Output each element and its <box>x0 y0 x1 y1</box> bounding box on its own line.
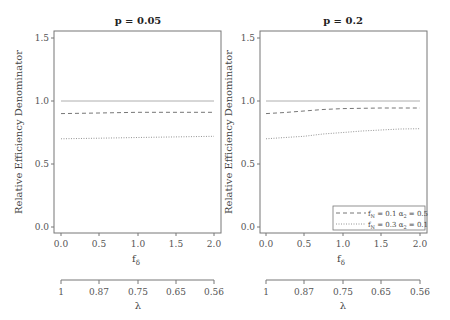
lambda-tick-label: 0.56 <box>410 287 430 297</box>
x-tick-label: 1.0 <box>131 239 146 249</box>
panel-left: p = 0.05 1.5 1.0 0.5 0.0 Relative Effici… <box>13 15 224 311</box>
x-tick-label: 2.0 <box>413 239 428 249</box>
plot-frame-left <box>54 31 221 233</box>
y-axis-label-right: Relative Efficiency Denominator <box>223 50 234 214</box>
y-tick-label: 1.5 <box>35 33 50 43</box>
x-tick-label: 1.5 <box>374 239 389 249</box>
lambda-tick-label: 0.65 <box>166 287 186 297</box>
x-tick-label: 1.5 <box>169 239 184 249</box>
series-dotted-left <box>61 136 214 139</box>
legend-entry-2: fN = 0.3 α2 = 0.1 <box>368 221 428 230</box>
y-tick-label: 0.0 <box>35 222 50 232</box>
y-axis-label-left: Relative Efficiency Denominator <box>13 50 24 214</box>
x-tick-label: 0.0 <box>54 239 69 249</box>
series-dashed-left <box>61 112 214 113</box>
lambda-tick-label: 0.87 <box>294 287 314 297</box>
y-tick-label: 0.5 <box>35 159 50 169</box>
series-dotted-right <box>266 129 420 139</box>
plot-frame-right <box>260 31 427 233</box>
x-tick-label: 2.0 <box>207 239 222 249</box>
lambda-tick-label: 0.75 <box>128 287 148 297</box>
panel-right: p = 0.2 1.5 1.0 0.5 0.0 Relative Efficie… <box>223 15 430 311</box>
lambda-tick-label: 0.65 <box>371 287 391 297</box>
lambda-axis-label-left: λ <box>135 300 142 311</box>
panel-title-right: p = 0.2 <box>323 15 363 26</box>
lambda-tick-label: 0.87 <box>89 287 109 297</box>
series-dashed-right <box>266 108 420 114</box>
legend-entry-1: fN = 0.1 α2 = 0.5 <box>368 210 428 219</box>
lambda-tick-label: 0.75 <box>333 287 353 297</box>
x-tick-label: 0.0 <box>259 239 274 249</box>
x-axis-label-left: fδ <box>132 253 140 267</box>
x-tick-label: 0.5 <box>92 239 107 249</box>
x-axis-label-right: fδ <box>337 253 345 267</box>
lambda-tick-label: 1 <box>58 287 64 297</box>
x-tick-label: 0.5 <box>297 239 312 249</box>
lambda-tick-label: 1 <box>263 287 269 297</box>
chart-canvas: p = 0.05 1.5 1.0 0.5 0.0 Relative Effici… <box>0 0 450 320</box>
y-tick-label: 1.0 <box>35 96 50 106</box>
lambda-axis-label-right: λ <box>340 300 347 311</box>
lambda-tick-label: 0.56 <box>204 287 224 297</box>
x-tick-label: 1.0 <box>336 239 351 249</box>
legend: fN = 0.1 α2 = 0.5 fN = 0.3 α2 = 0.1 <box>333 206 428 230</box>
y-tick-label: 0.5 <box>241 159 256 169</box>
panel-title-left: p = 0.05 <box>115 15 162 26</box>
y-tick-label: 1.0 <box>241 96 256 106</box>
y-tick-label: 1.5 <box>241 33 256 43</box>
y-tick-label: 0.0 <box>241 222 256 232</box>
